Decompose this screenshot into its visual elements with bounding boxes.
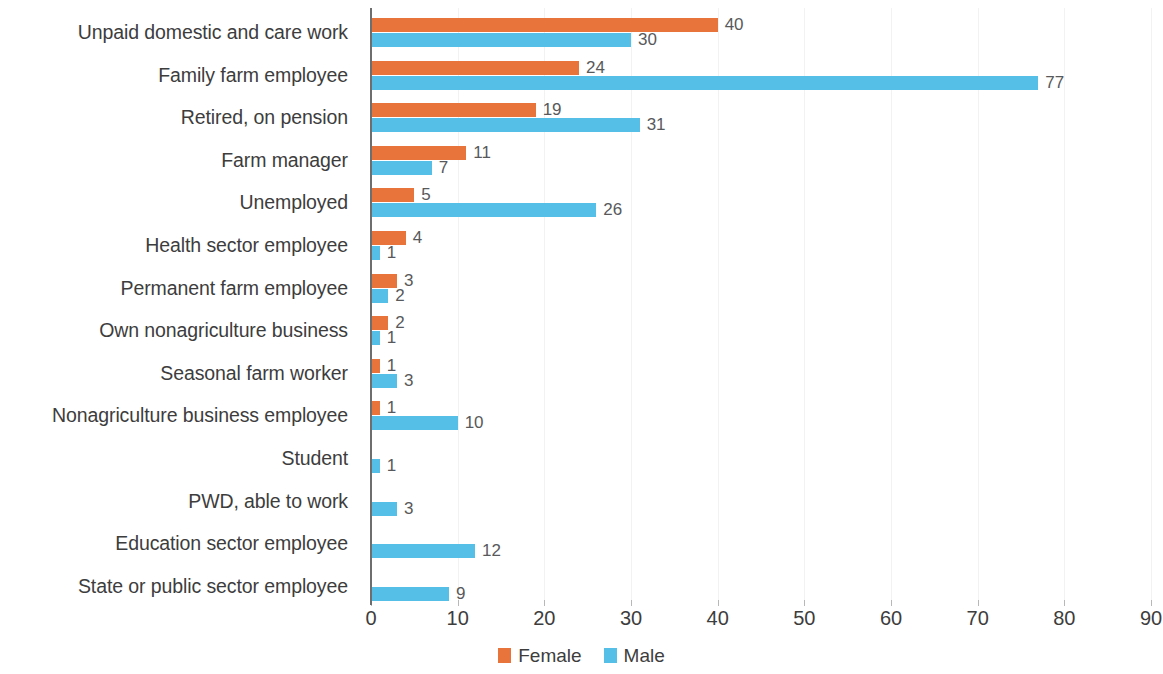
legend-swatch-icon [604, 648, 617, 663]
category-label: Own nonagriculture business [0, 321, 348, 341]
category-label: Family farm employee [0, 66, 348, 86]
x-tick-mark [544, 600, 545, 606]
bar-female [371, 146, 466, 160]
bar-value-label: 12 [482, 544, 501, 558]
category-label: Seasonal farm worker [0, 364, 348, 384]
bar-male [371, 33, 631, 47]
category-label: Health sector employee [0, 236, 348, 256]
bar-male [371, 587, 449, 601]
bar-row: 4030 [371, 18, 1151, 48]
plot-area: 4030247719311175264132211311013129 [371, 8, 1151, 605]
x-tick-label: 70 [967, 608, 989, 628]
category-label: Unpaid domestic and care work [0, 23, 348, 43]
value-axis-ticks: 0102030405060708090 [371, 608, 1151, 638]
bar-row: 32 [371, 274, 1151, 304]
bar-value-label: 3 [404, 274, 413, 288]
bar-value-label: 3 [404, 502, 413, 516]
bar-female [371, 188, 414, 202]
legend-item-male[interactable]: Male [604, 646, 665, 665]
bar-value-label: 11 [473, 146, 491, 160]
x-tick-mark [1151, 600, 1152, 606]
bar-row: 117 [371, 146, 1151, 176]
bar-male [371, 544, 475, 558]
bar-value-label: 1 [387, 331, 396, 345]
x-tick-label: 40 [707, 608, 729, 628]
x-tick-mark [978, 600, 979, 606]
bar-value-label: 26 [603, 203, 622, 217]
bar-female [371, 401, 380, 415]
legend-item-female[interactable]: Female [498, 646, 581, 665]
bar-value-label: 2 [395, 316, 404, 330]
bar-female [371, 18, 718, 32]
bar-value-label: 24 [586, 61, 605, 75]
x-tick-mark [891, 600, 892, 606]
x-tick-mark [1064, 600, 1065, 606]
category-label: PWD, able to work [0, 492, 348, 512]
bar-female [371, 103, 536, 117]
category-label: Unemployed [0, 193, 348, 213]
bar-male [371, 289, 388, 303]
gridline [1151, 8, 1152, 605]
bar-value-label: 1 [387, 246, 396, 260]
category-label: Education sector employee [0, 534, 348, 554]
bar-male [371, 416, 458, 430]
bar-row: 1931 [371, 103, 1151, 133]
bar-value-label: 40 [725, 18, 744, 32]
bar-male [371, 161, 432, 175]
bar-female [371, 274, 397, 288]
bar-row: 110 [371, 401, 1151, 431]
bar-value-label: 30 [638, 33, 657, 47]
bar-male [371, 203, 596, 217]
category-label: Nonagriculture business employee [0, 406, 348, 426]
bar-row: 9 [371, 572, 1151, 602]
legend-label: Female [518, 646, 581, 665]
bar-male [371, 76, 1038, 90]
category-label: Permanent farm employee [0, 279, 348, 299]
x-tick-mark [631, 600, 632, 606]
category-label: Retired, on pension [0, 108, 348, 128]
category-label: State or public sector employee [0, 577, 348, 597]
legend-label: Male [624, 646, 665, 665]
bar-row: 2477 [371, 61, 1151, 91]
x-tick-label: 20 [533, 608, 555, 628]
bar-male [371, 502, 397, 516]
bar-value-label: 5 [421, 188, 430, 202]
bar-value-label: 4 [413, 231, 422, 245]
bar-value-label: 1 [387, 459, 396, 473]
category-label: Farm manager [0, 151, 348, 171]
bar-value-label: 3 [404, 374, 413, 388]
bar-value-label: 19 [543, 103, 562, 117]
x-tick-label: 30 [620, 608, 642, 628]
bar-male [371, 459, 380, 473]
bar-value-label: 31 [647, 118, 666, 132]
x-tick-label: 10 [447, 608, 469, 628]
x-tick-mark [458, 600, 459, 606]
bar-row: 12 [371, 529, 1151, 559]
category-label: Student [0, 449, 348, 469]
bar-male [371, 246, 380, 260]
x-tick-label: 60 [880, 608, 902, 628]
category-axis: Unpaid domestic and care workFamily farm… [0, 8, 360, 605]
bar-value-label: 1 [387, 401, 396, 415]
bar-value-label: 7 [439, 161, 448, 175]
legend-swatch-icon [498, 648, 511, 663]
chart-legend: FemaleMale [0, 646, 1163, 665]
value-axis-line [370, 8, 372, 605]
bar-female [371, 359, 380, 373]
bar-row: 3 [371, 487, 1151, 517]
bar-male [371, 331, 380, 345]
x-tick-label: 90 [1140, 608, 1162, 628]
bar-male [371, 118, 640, 132]
x-tick-label: 50 [793, 608, 815, 628]
bar-row: 1 [371, 444, 1151, 474]
x-tick-label: 0 [365, 608, 376, 628]
x-tick-mark [804, 600, 805, 606]
bar-row: 21 [371, 316, 1151, 346]
bar-female [371, 316, 388, 330]
x-tick-label: 80 [1053, 608, 1075, 628]
bar-value-label: 9 [456, 587, 465, 601]
bar-chart: Unpaid domestic and care workFamily farm… [0, 0, 1163, 674]
bar-value-label: 2 [395, 289, 404, 303]
bar-female [371, 61, 579, 75]
x-tick-mark [718, 600, 719, 606]
